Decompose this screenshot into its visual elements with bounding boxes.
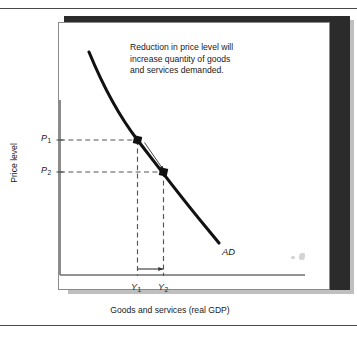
y-tick-label-p1-text: P	[41, 133, 47, 143]
page-rule-bottom	[0, 325, 357, 326]
y-axis-title: Price level	[9, 123, 19, 203]
x-tick-label-y1: Y1	[131, 282, 141, 292]
x-tick-label-y2: Y2	[158, 282, 168, 292]
annotation-note: Reduction in price level will increase q…	[130, 42, 320, 77]
y-tick-label-p1-sub: 1	[48, 137, 52, 144]
annotation-line-1: Reduction in price level will	[130, 42, 320, 54]
x-tick-label-y2-text: Y	[158, 282, 164, 292]
x-tick-label-y2-sub: 2	[165, 286, 169, 293]
scan-artifact-icon	[299, 253, 305, 260]
x-axis-title: Goods and services (real GDP)	[60, 305, 280, 315]
x-tick-label-y1-text: Y	[131, 282, 137, 292]
x-tick-label-y1-sub: 1	[138, 286, 142, 293]
annotation-line-3: and services demanded.	[130, 65, 320, 77]
y-tick-label-p2-text: P	[41, 165, 47, 175]
annotation-line-2: increase quantity of goods	[130, 54, 320, 66]
y-tick-label-p1: P1	[41, 133, 51, 143]
scan-artifact-icon	[291, 256, 295, 259]
ad-curve-label: AD	[222, 246, 235, 257]
page-rule-top	[0, 8, 357, 9]
y-tick-label-p2: P2	[41, 165, 51, 175]
y-tick-label-p2-sub: 2	[48, 169, 52, 176]
